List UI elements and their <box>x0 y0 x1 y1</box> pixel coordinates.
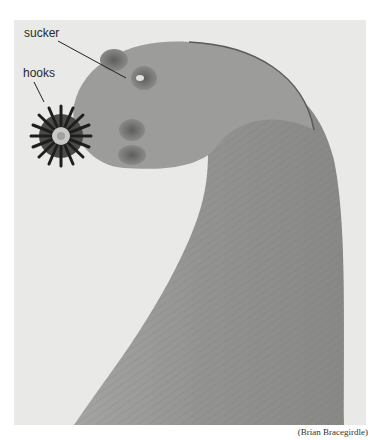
sucker-upper-left <box>100 49 128 71</box>
hooks-leader-line <box>34 82 44 102</box>
photo-credit: (Brian Bracegirdle) <box>298 427 368 437</box>
specimen-photo: sucker hooks <box>14 20 366 425</box>
hooks-crown <box>31 106 91 166</box>
hooks-label: hooks <box>23 67 55 79</box>
sucker-lower-upper <box>119 119 145 141</box>
sucker-lower <box>118 145 146 165</box>
sucker-label: sucker <box>24 27 59 39</box>
tapeworm-illustration <box>14 20 366 425</box>
